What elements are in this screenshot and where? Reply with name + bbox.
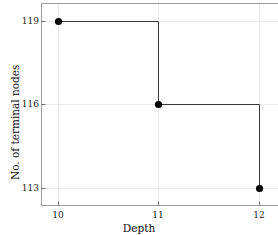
xtick-label-11: 11 <box>152 211 163 220</box>
y-axis-title: No. of terminal nodes <box>10 65 21 180</box>
ytick-label-113: 113 <box>9 184 39 193</box>
tick-marks <box>42 22 260 206</box>
xtick-label-10: 10 <box>52 211 63 220</box>
data-point-11-116 <box>155 101 162 108</box>
step-plot-canvas <box>0 0 278 235</box>
xtick-label-12: 12 <box>253 211 264 220</box>
chart-figure: 119 116 113 10 11 12 Depth No. of termin… <box>0 0 278 235</box>
ytick-label-119: 119 <box>9 17 39 26</box>
data-point-12-113 <box>256 185 263 192</box>
x-axis-title: Depth <box>0 223 278 234</box>
data-point-10-119 <box>55 18 62 25</box>
